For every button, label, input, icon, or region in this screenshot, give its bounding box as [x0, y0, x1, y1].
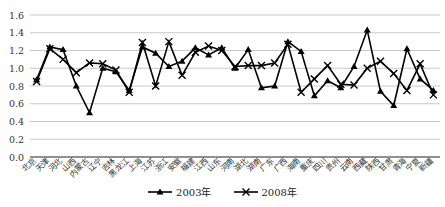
legend-label-2003: 2003年 [176, 184, 211, 199]
y-tick-label: 0.6 [9, 98, 24, 109]
triangle-marker [86, 109, 93, 115]
triangle-marker [324, 77, 331, 83]
y-tick-label: 0.8 [9, 81, 24, 92]
x-marker [73, 69, 80, 76]
line-chart: 0.00.20.40.60.81.01.21.41.6北京天津河北山西内蒙古辽宁… [0, 0, 445, 207]
triangle-marker [245, 46, 252, 52]
triangle-marker [351, 63, 358, 69]
y-tick-label: 1.6 [9, 10, 24, 21]
x-marker [179, 72, 186, 79]
triangle-marker-icon [148, 187, 172, 197]
triangle-marker [403, 45, 410, 51]
legend: 2003年 2008年 [0, 184, 445, 199]
x-marker [377, 58, 384, 65]
x-tick-label: 新疆 [416, 155, 434, 173]
legend-label-2008: 2008年 [262, 184, 297, 199]
x-marker [311, 75, 318, 82]
y-tick-label: 1.0 [9, 63, 24, 74]
y-tick-label: 0.0 [9, 152, 24, 163]
triangle-marker [417, 75, 424, 81]
x-marker [403, 87, 410, 94]
legend-item-2003: 2003年 [148, 184, 211, 199]
series-line [37, 30, 434, 113]
y-tick-label: 1.4 [9, 27, 24, 38]
triangle-marker [377, 88, 384, 94]
x-marker [417, 60, 424, 67]
x-marker-icon [234, 187, 258, 197]
y-tick-label: 1.2 [9, 45, 24, 56]
legend-item-2008: 2008年 [234, 184, 297, 199]
x-marker [390, 70, 397, 77]
y-tick-label: 0.4 [9, 116, 24, 127]
triangle-marker [364, 27, 371, 33]
x-marker [60, 56, 67, 63]
y-tick-label: 0.2 [9, 134, 24, 145]
